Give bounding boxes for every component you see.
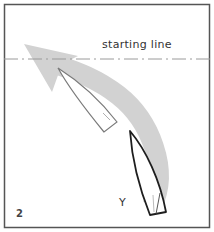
- panel-number: 2: [16, 208, 23, 219]
- starting-line-label: starting line: [102, 38, 172, 51]
- boat-label: Y: [119, 196, 126, 209]
- diagram-canvas: [0, 0, 214, 232]
